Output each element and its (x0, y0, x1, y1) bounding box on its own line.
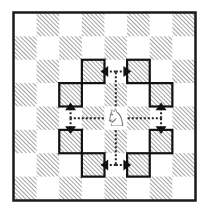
dark-square (14, 83, 37, 107)
dark-square (14, 36, 37, 60)
chess-board-diagram: ♘ (0, 0, 207, 211)
light-square (127, 177, 150, 201)
dark-square (150, 36, 173, 60)
dark-square (59, 36, 82, 60)
light-square (37, 130, 60, 154)
light-square (127, 36, 150, 60)
light-square (82, 130, 105, 154)
light-square (150, 13, 173, 37)
dark-square (37, 60, 60, 84)
dark-square (127, 13, 150, 37)
light-square (82, 83, 105, 107)
dark-square (59, 177, 82, 201)
dark-square (37, 153, 60, 177)
light-square (127, 83, 150, 107)
light-square (172, 130, 195, 154)
dark-square (172, 60, 195, 84)
light-square (14, 153, 37, 177)
light-square (14, 13, 37, 37)
dark-square (37, 13, 60, 37)
light-square (172, 177, 195, 201)
dark-square (82, 13, 105, 37)
light-square (59, 13, 82, 37)
light-square (37, 177, 60, 201)
light-square (14, 60, 37, 84)
light-square (82, 177, 105, 201)
light-square (59, 60, 82, 84)
light-square (127, 130, 150, 154)
light-square (172, 36, 195, 60)
piece-layer: ♘ (105, 104, 127, 132)
dark-square (105, 36, 128, 60)
dark-square (14, 177, 37, 201)
light-square (14, 107, 37, 131)
light-square (150, 153, 173, 177)
light-square (37, 36, 60, 60)
light-square (82, 36, 105, 60)
white-knight-icon: ♘ (105, 104, 127, 132)
dark-square (127, 107, 150, 131)
light-square (105, 13, 128, 37)
dark-square (37, 107, 60, 131)
dark-square (82, 107, 105, 131)
dark-square (172, 107, 195, 131)
dark-square (14, 130, 37, 154)
light-square (59, 153, 82, 177)
dark-square (172, 153, 195, 177)
light-square (37, 83, 60, 107)
dark-square (172, 13, 195, 37)
light-square (150, 60, 173, 84)
dark-square (105, 177, 128, 201)
dark-square (105, 130, 128, 154)
dark-square (150, 177, 173, 201)
light-square (172, 83, 195, 107)
